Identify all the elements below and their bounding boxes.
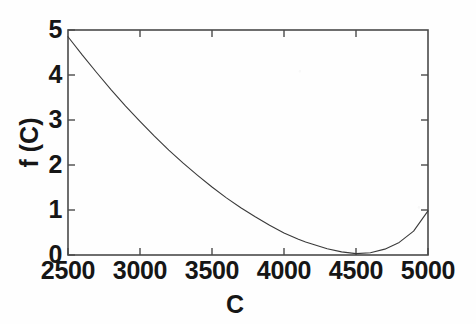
axes-frame: [68, 30, 428, 255]
figure-canvas: 5 4 3 2 1 0 2500 3000 3500 4000 4500 500…: [0, 0, 476, 324]
y-tick-label-1: 1: [28, 197, 62, 222]
data-series-f-of-c: [68, 37, 428, 254]
x-tick-label-5000: 5000: [383, 258, 473, 283]
y-tick-label-4: 4: [28, 62, 62, 87]
x-axis-ticks-top: [140, 30, 356, 37]
x-axis-label: C: [190, 290, 280, 319]
y-axis-ticks-left: [68, 30, 75, 255]
y-tick-label-5: 5: [28, 17, 62, 42]
plot-frame: [68, 30, 428, 255]
y-axis-label: f (C): [15, 98, 44, 188]
y-axis-ticks-right: [421, 75, 428, 210]
